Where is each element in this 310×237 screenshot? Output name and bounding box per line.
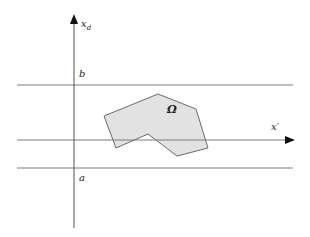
diagram-canvas: xd b a x′ Ω — [0, 0, 310, 237]
lower-bound-label: a — [79, 172, 85, 183]
region-label: Ω — [166, 103, 177, 116]
vertical-axis-label: xd — [81, 18, 92, 32]
vertical-axis-arrow-icon — [70, 14, 78, 24]
region-omega — [104, 94, 208, 156]
horizontal-axis-arrow-icon — [285, 136, 295, 144]
upper-bound-label: b — [79, 68, 85, 79]
horizontal-axis-label: x′ — [271, 121, 280, 132]
diagram-svg: xd b a x′ Ω — [0, 0, 310, 237]
